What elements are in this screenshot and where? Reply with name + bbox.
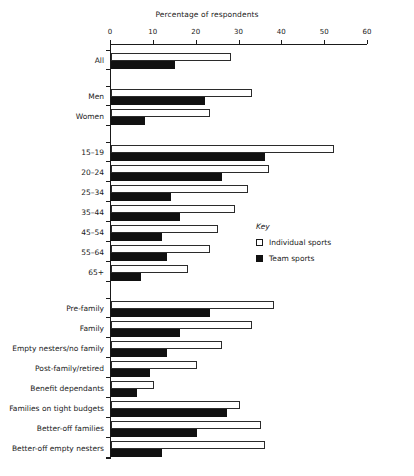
- y-group-tick: [106, 50, 110, 51]
- y-category-tick: [106, 357, 110, 358]
- y-category-tick: [106, 397, 110, 398]
- y-group-tick: [106, 86, 110, 87]
- bar-individual-sports: [111, 53, 231, 61]
- y-category-tick: [106, 281, 110, 282]
- bar-team-sports: [111, 449, 162, 457]
- y-group-tick: [106, 298, 110, 299]
- x-tick-label: 40: [277, 28, 286, 36]
- x-tick-label: 10: [148, 28, 157, 36]
- y-category-tick: [106, 69, 110, 70]
- bar-team-sports: [111, 273, 141, 281]
- bar-team-sports: [111, 233, 162, 241]
- legend-item-individual-sports: Individual sports: [256, 238, 331, 247]
- chart-container: Percentage of respondents 0102030405060 …: [0, 0, 414, 476]
- category-label: 55–64: [81, 248, 104, 257]
- bar-individual-sports: [111, 185, 248, 193]
- x-tick-label: 0: [108, 28, 112, 36]
- category-label: All: [95, 56, 104, 65]
- category-label: Families on tight budgets: [9, 404, 104, 413]
- x-axis-line: [110, 44, 367, 45]
- x-tick: [110, 40, 111, 44]
- bar-individual-sports: [111, 205, 235, 213]
- bar-individual-sports: [111, 301, 274, 309]
- category-label: Family: [80, 324, 104, 333]
- x-tick: [281, 40, 282, 44]
- category-label: 45–54: [81, 228, 104, 237]
- y-category-tick: [106, 241, 110, 242]
- category-label: 35–44: [81, 208, 104, 217]
- y-category-tick: [106, 437, 110, 438]
- y-category-tick: [106, 161, 110, 162]
- y-category-tick: [106, 201, 110, 202]
- bar-team-sports: [111, 97, 205, 105]
- bar-individual-sports: [111, 361, 197, 369]
- y-category-tick: [106, 125, 110, 126]
- bar-team-sports: [111, 409, 227, 417]
- bar-team-sports: [111, 329, 180, 337]
- legend-swatch-individual-icon: [256, 239, 263, 246]
- bar-team-sports: [111, 253, 167, 261]
- category-label: Women: [76, 112, 104, 121]
- category-label: Better-off families: [37, 424, 104, 433]
- bar-team-sports: [111, 153, 265, 161]
- bar-individual-sports: [111, 109, 210, 117]
- category-label: 25–34: [81, 188, 104, 197]
- y-category-tick: [106, 377, 110, 378]
- x-tick: [367, 40, 368, 44]
- bar-team-sports: [111, 213, 180, 221]
- category-label: 20–24: [81, 168, 104, 177]
- bar-team-sports: [111, 349, 167, 357]
- category-label: Post-family/retired: [35, 364, 104, 373]
- y-category-tick: [106, 181, 110, 182]
- category-label: Benefit dependants: [30, 384, 104, 393]
- category-label: 65+: [88, 268, 104, 277]
- chart-legend: Key Individual sports Team sports: [256, 222, 331, 270]
- category-label: Pre-family: [66, 304, 104, 313]
- bar-individual-sports: [111, 89, 252, 97]
- legend-title: Key: [256, 222, 331, 231]
- x-tick-label: 50: [320, 28, 329, 36]
- bar-team-sports: [111, 369, 150, 377]
- category-label: Empty nesters/no family: [12, 344, 104, 353]
- bar-team-sports: [111, 193, 171, 201]
- y-group-tick: [106, 142, 110, 143]
- bar-team-sports: [111, 309, 210, 317]
- bar-team-sports: [111, 117, 145, 125]
- y-axis-end-tick: [106, 458, 110, 459]
- bar-individual-sports: [111, 381, 154, 389]
- x-tick: [239, 40, 240, 44]
- x-tick: [324, 40, 325, 44]
- x-tick: [196, 40, 197, 44]
- bar-individual-sports: [111, 441, 265, 449]
- bar-individual-sports: [111, 225, 218, 233]
- bar-team-sports: [111, 173, 222, 181]
- legend-label-team-sports: Team sports: [269, 254, 314, 263]
- bar-team-sports: [111, 61, 175, 69]
- category-label: Men: [88, 92, 104, 101]
- y-category-tick: [106, 105, 110, 106]
- legend-swatch-team-icon: [256, 255, 263, 262]
- x-tick: [153, 40, 154, 44]
- bar-individual-sports: [111, 245, 210, 253]
- bar-individual-sports: [111, 265, 188, 273]
- y-category-tick: [106, 261, 110, 262]
- bar-individual-sports: [111, 401, 240, 409]
- bar-team-sports: [111, 389, 137, 397]
- bar-individual-sports: [111, 341, 222, 349]
- bar-individual-sports: [111, 145, 334, 153]
- y-category-tick: [106, 417, 110, 418]
- x-tick-label: 20: [191, 28, 200, 36]
- category-label: Better-off empty nesters: [12, 444, 104, 453]
- bar-individual-sports: [111, 421, 261, 429]
- bar-individual-sports: [111, 321, 252, 329]
- y-category-tick: [106, 317, 110, 318]
- bar-individual-sports: [111, 165, 269, 173]
- x-tick-label: 30: [234, 28, 243, 36]
- y-category-tick: [106, 337, 110, 338]
- legend-label-individual-sports: Individual sports: [269, 238, 331, 247]
- x-tick-label: 60: [363, 28, 372, 36]
- category-label: 15–19: [81, 148, 104, 157]
- legend-item-team-sports: Team sports: [256, 254, 331, 263]
- chart-title: Percentage of respondents: [0, 10, 414, 19]
- bar-team-sports: [111, 429, 197, 437]
